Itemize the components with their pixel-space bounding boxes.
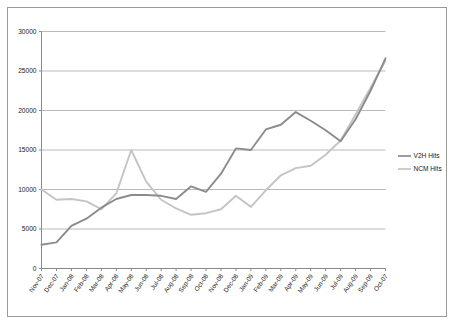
y-axis-tick-label: 15000 (18, 146, 37, 153)
chart-container: 300002500020000150001000050000 Nov-07Dec… (0, 0, 454, 329)
x-axis-tick-labels: Nov-07Dec-07Jan-08Feb-08Mar-08Apr-08May-… (27, 269, 389, 295)
x-axis-tick-label: Sep-08 (177, 272, 196, 294)
x-axis-tick-label: Dec-08 (222, 272, 240, 293)
x-axis-tick-label: May-08 (117, 272, 136, 294)
x-axis-tick-label: Mar-08 (87, 272, 105, 293)
x-axis-tick-label: Mar-09 (267, 272, 285, 293)
chart-legend: V2H HitsNCM Hits (398, 152, 442, 172)
x-axis-tick-label: May-09 (296, 272, 315, 294)
legend-label: V2H Hits (414, 152, 441, 159)
chart-plot-svg: 300002500020000150001000050000 Nov-07Dec… (0, 0, 454, 329)
series-line-v2h-hits (42, 58, 386, 244)
y-axis-tick-label: 5000 (22, 225, 37, 232)
y-axis-tick-label: 20000 (18, 107, 37, 114)
series-line-ncm-hits (42, 61, 386, 215)
y-axis-tick-label: 25000 (18, 67, 37, 74)
x-axis-tick-label: Jun-09 (312, 272, 329, 292)
legend-label: NCM Hits (414, 165, 443, 172)
gridlines-group (42, 32, 386, 269)
y-axis-tick-label: 10000 (18, 186, 37, 193)
x-axis-tick-label: Jun-08 (133, 272, 150, 292)
y-axis-tick-labels: 300002500020000150001000050000 (18, 28, 41, 272)
x-axis-tick-label: Sep-09 (356, 272, 375, 294)
data-series-group (42, 58, 386, 244)
y-axis-tick-label: 30000 (18, 28, 37, 35)
x-axis-tick-label: Oct-07 (372, 272, 389, 292)
y-axis-tick-label: 0 (33, 265, 37, 272)
x-axis-tick-label: Dec-07 (42, 272, 60, 293)
